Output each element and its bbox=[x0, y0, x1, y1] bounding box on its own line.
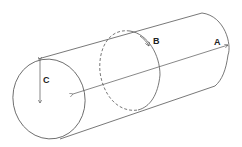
cross-section-dashed bbox=[100, 31, 138, 111]
label-b: B bbox=[153, 36, 160, 46]
label-c: C bbox=[43, 75, 50, 85]
back-face-arc bbox=[202, 13, 229, 86]
label-a: A bbox=[214, 37, 221, 47]
cylinder-diagram: A B C bbox=[0, 0, 242, 147]
cylinder-top-edge bbox=[38, 13, 202, 59]
a-dimension-arrow-icon bbox=[73, 45, 228, 94]
front-face-ellipse bbox=[7, 53, 92, 144]
